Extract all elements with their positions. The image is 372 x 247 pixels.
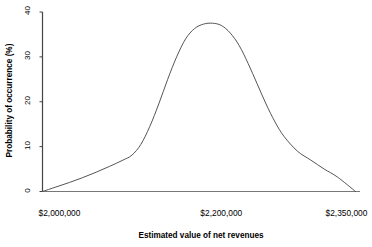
y-tick-label-text: 10: [23, 141, 32, 150]
chart-figure: Probability of occurrence (%) Estimated …: [0, 0, 372, 247]
y-tick-label-text: 0: [23, 188, 32, 192]
y-tick-label-text: 20: [23, 96, 32, 105]
probability-distribution-curve: [43, 23, 356, 191]
y-tick-label: 40: [19, 6, 37, 15]
x-tick-label: $2,200,000: [200, 208, 242, 218]
x-tick-label: $2,350,000: [326, 208, 368, 218]
y-tick-label-text: 40: [23, 6, 32, 15]
y-tick-label: 10: [19, 141, 37, 150]
y-tick-label: 0: [19, 186, 37, 195]
x-tick-label: $2,000,000: [39, 208, 81, 218]
y-tick-label: 20: [19, 96, 37, 105]
y-tick-label-text: 30: [23, 51, 32, 60]
y-tick-label: 30: [19, 51, 37, 60]
